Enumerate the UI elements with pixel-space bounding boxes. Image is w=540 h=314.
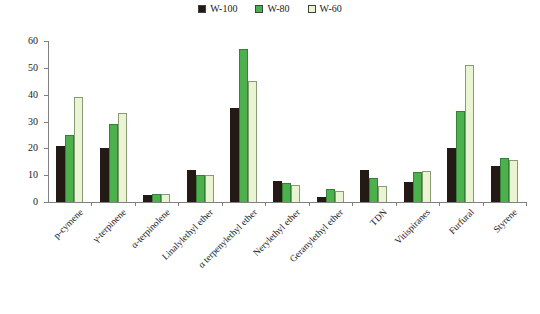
bar[interactable] [447, 148, 456, 202]
x-axis [48, 202, 526, 203]
x-axis-tick [526, 202, 527, 206]
bar[interactable] [404, 182, 413, 202]
x-axis-tick [91, 202, 92, 206]
bar-group [265, 41, 308, 202]
legend-swatch-icon [198, 5, 206, 13]
bar[interactable] [291, 185, 300, 202]
bar[interactable] [56, 146, 65, 202]
bar[interactable] [100, 148, 109, 202]
legend-entry[interactable]: W-100 [198, 4, 237, 14]
bar[interactable] [282, 183, 291, 202]
bar[interactable] [118, 113, 127, 202]
y-axis-tick-label: 10 [28, 168, 38, 181]
bar[interactable] [360, 170, 369, 202]
bar-group [48, 41, 91, 202]
bar[interactable] [196, 175, 205, 202]
chart-legend: W-100W-80W-60 [0, 4, 540, 14]
legend-label: W-80 [267, 4, 289, 14]
y-axis-tick-label: 30 [28, 115, 38, 128]
bar[interactable] [500, 158, 509, 202]
bar-group [178, 41, 221, 202]
x-axis-tick [135, 202, 136, 206]
legend-entry[interactable]: W-60 [308, 4, 342, 14]
bar[interactable] [273, 181, 282, 202]
y-axis-tick-label: 40 [28, 88, 38, 101]
bar[interactable] [413, 172, 422, 202]
bar-group [309, 41, 352, 202]
x-axis-tick [265, 202, 266, 206]
bar[interactable] [205, 175, 214, 202]
bar-group [483, 41, 526, 202]
bar[interactable] [422, 171, 431, 202]
bar[interactable] [465, 65, 474, 202]
legend-entry[interactable]: W-80 [255, 4, 289, 14]
legend-label: W-60 [320, 4, 342, 14]
bar-group [352, 41, 395, 202]
legend-label: W-100 [210, 4, 237, 14]
bar[interactable] [378, 186, 387, 202]
bar[interactable] [491, 166, 500, 202]
bar-group [396, 41, 439, 202]
x-axis-category-label: Styrene [492, 207, 520, 235]
bar-group [439, 41, 482, 202]
bar[interactable] [161, 194, 170, 202]
bar-chart-figure: W-100W-80W-60 0102030405060 p-cymeneγ-te… [0, 0, 540, 314]
bar[interactable] [239, 49, 248, 202]
x-axis-category-label: Furfural [447, 207, 477, 237]
bar-group [135, 41, 178, 202]
x-axis-category-label: γ-terpinene [91, 207, 129, 245]
x-axis-category-label: Vitispiranes [393, 207, 433, 247]
bar-group [222, 41, 265, 202]
bar[interactable] [509, 160, 518, 202]
x-axis-category-label: p-cymene [51, 207, 85, 241]
legend-swatch-icon [308, 5, 316, 13]
bar[interactable] [230, 108, 239, 202]
bar[interactable] [143, 195, 152, 202]
plot-area [48, 41, 526, 202]
bar[interactable] [326, 189, 335, 202]
x-axis-tick [178, 202, 179, 206]
y-axis-tick-label: 0 [33, 195, 38, 208]
bar[interactable] [317, 197, 326, 202]
x-axis-category-label: TDN [368, 207, 390, 229]
x-axis-tick [352, 202, 353, 206]
bar[interactable] [248, 81, 257, 202]
x-axis-tick [396, 202, 397, 206]
bar-group [91, 41, 134, 202]
bar[interactable] [187, 170, 196, 202]
x-axis-tick [439, 202, 440, 206]
bar[interactable] [369, 178, 378, 202]
y-axis-tick-label: 50 [28, 61, 38, 74]
bar[interactable] [152, 194, 161, 202]
y-axis-tick-label: 20 [28, 141, 38, 154]
x-axis-tick [483, 202, 484, 206]
x-axis-category-label: α-terpinolene [129, 207, 173, 251]
bar[interactable] [74, 97, 83, 202]
bar[interactable] [456, 111, 465, 202]
bar[interactable] [335, 191, 344, 202]
legend-swatch-icon [255, 5, 263, 13]
bar[interactable] [109, 124, 118, 202]
x-axis-tick [309, 202, 310, 206]
x-axis-tick [222, 202, 223, 206]
bar[interactable] [65, 135, 74, 202]
y-axis-tick-label: 60 [28, 34, 38, 47]
